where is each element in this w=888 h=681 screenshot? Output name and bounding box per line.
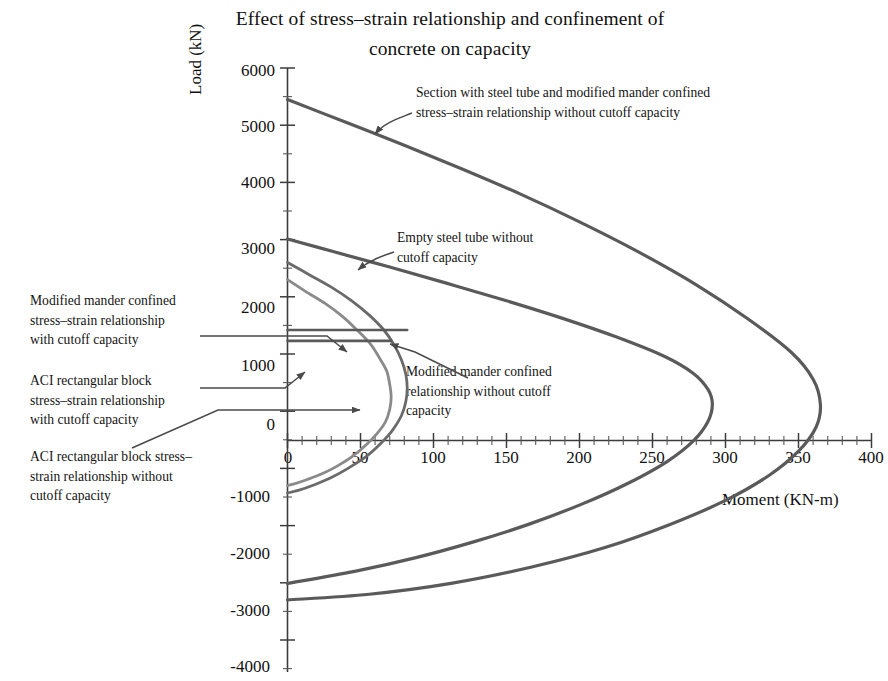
annotation-3-line-1: Modified mander confined [30, 291, 210, 311]
annotation-6-line-3: capacity [406, 401, 621, 421]
x-axis-title: Moment (KN-m) [722, 490, 839, 510]
annotation-4-line-2: stress–strain relationship [30, 391, 210, 411]
annotation-2-line-1: Empty steel tube without [397, 228, 647, 248]
annotation-mander-with-cutoff: Modified mander confined stress–strain r… [30, 291, 210, 350]
leader-line-3 [200, 336, 347, 352]
x-tick-label-250: 250 [622, 448, 682, 468]
y-axis-minor-ticks [283, 97, 292, 669]
annotation-6-line-1: Modified mander confined [406, 362, 621, 382]
y-tick-label-0: 0 [205, 415, 275, 435]
x-tick-label-300: 300 [695, 448, 755, 468]
y-tick-label-6000: 6000 [205, 61, 275, 81]
annotation-5-line-3: cutoff capacity [30, 486, 220, 506]
leader-line-1 [375, 113, 412, 134]
y-tick-label-4000: 4000 [205, 173, 275, 193]
x-tick-label-400: 400 [841, 448, 888, 468]
y-tick-label-5000: 5000 [205, 117, 275, 137]
annotation-2-line-2: cutoff capacity [397, 248, 647, 268]
x-tick-label-200: 200 [549, 448, 609, 468]
annotation-1-line-1: Section with steel tube and modified man… [416, 83, 776, 103]
chart-title-line-1: Effect of stress–strain relationship and… [170, 4, 730, 34]
annotation-1-line-2: stress–strain relationship without cutof… [416, 103, 776, 123]
annotation-aci-without-cutoff: ACI rectangular block stress– strain rel… [30, 447, 220, 506]
annotation-3-line-3: with cutoff capacity [30, 330, 210, 350]
interaction-curves [288, 99, 821, 600]
x-tick-label-50: 50 [330, 448, 390, 468]
chart-title-line-2: concrete on capacity [170, 34, 730, 64]
x-tick-label-100: 100 [403, 448, 463, 468]
leader-line-2 [358, 252, 394, 270]
annotation-4-line-1: ACI rectangular block [30, 371, 210, 391]
annotation-empty-steel-tube: Empty steel tube without cutoff capacity [397, 228, 647, 267]
y-tick-label-2000: 2000 [205, 298, 275, 318]
curve-series-0 [288, 99, 821, 600]
x-axis-minor-ticks [302, 436, 857, 445]
annotation-4-line-3: with cutoff capacity [30, 410, 210, 430]
x-tick-label-0: 0 [258, 448, 318, 468]
annotation-5-line-2: strain relationship without [30, 467, 220, 487]
y-tick-label-3000: 3000 [205, 239, 275, 259]
annotation-6-line-2: relationship without cutoff [406, 382, 621, 402]
annotation-aci-with-cutoff: ACI rectangular block stress–strain rela… [30, 371, 210, 430]
y-axis-title: Load (kN) [186, 24, 206, 95]
y-tick-label-n3000: -3000 [200, 601, 270, 621]
y-axis-major-ticks [280, 68, 295, 640]
y-tick-label-n2000: -2000 [200, 544, 270, 564]
annotation-3-line-2: stress–strain relationship [30, 311, 210, 331]
chart-title: Effect of stress–strain relationship and… [170, 4, 730, 64]
x-tick-label-150: 150 [476, 448, 536, 468]
x-tick-label-350: 350 [768, 448, 828, 468]
annotation-mander-without-cutoff: Modified mander confined relationship wi… [406, 362, 621, 421]
x-axis-major-ticks [288, 433, 872, 448]
y-tick-label-n4000: -4000 [200, 657, 270, 677]
annotation-steel-tube-mander-no-cutoff: Section with steel tube and modified man… [416, 83, 776, 122]
annotation-5-line-1: ACI rectangular block stress– [30, 447, 220, 467]
y-tick-label-1000: 1000 [205, 356, 275, 376]
